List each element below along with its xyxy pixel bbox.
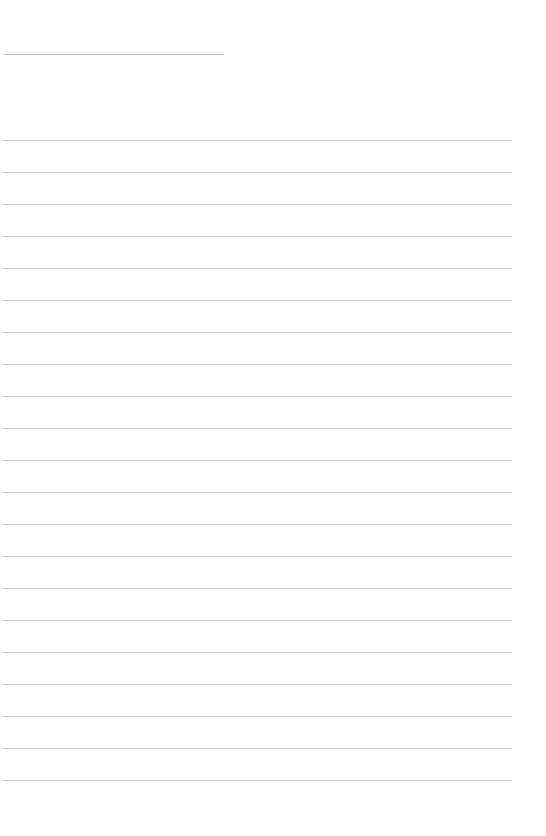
ruled-line: [3, 300, 511, 301]
ruled-line: [3, 652, 511, 653]
ruled-line: [3, 588, 511, 589]
ruled-line: [3, 524, 511, 525]
ruled-line: [3, 140, 511, 141]
ruled-line: [3, 716, 511, 717]
ruled-line: [3, 684, 511, 685]
ruled-line: [3, 620, 511, 621]
ruled-line: [3, 428, 511, 429]
ruled-line: [3, 204, 511, 205]
ruled-line: [3, 460, 511, 461]
ruled-line: [3, 268, 511, 269]
title-line: [4, 54, 224, 55]
ruled-line: [3, 332, 511, 333]
ruled-line: [3, 556, 511, 557]
ruled-line: [3, 172, 511, 173]
ruled-line: [3, 364, 511, 365]
ruled-line: [3, 396, 511, 397]
ruled-line: [3, 236, 511, 237]
ruled-line: [3, 780, 511, 781]
ruled-line: [3, 492, 511, 493]
ruled-line: [3, 748, 511, 749]
